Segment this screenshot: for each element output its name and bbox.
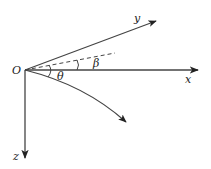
coordinate-diagram: O y x z β θ [0,0,211,169]
x-axis-label: x [185,73,192,86]
theta-label: θ [57,70,64,83]
curved-trajectory [25,70,126,122]
y-axis [25,21,156,70]
theta-angle-arc [48,65,51,77]
beta-angle-arc [77,60,79,70]
origin-label: O [12,64,21,77]
beta-label: β [92,57,99,70]
dashed-line [25,53,115,70]
z-axis-label: z [12,150,19,163]
y-axis-label: y [133,12,141,25]
